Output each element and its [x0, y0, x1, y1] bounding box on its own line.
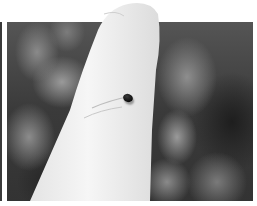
finger [0, 0, 257, 206]
photo-canvas [0, 0, 257, 206]
